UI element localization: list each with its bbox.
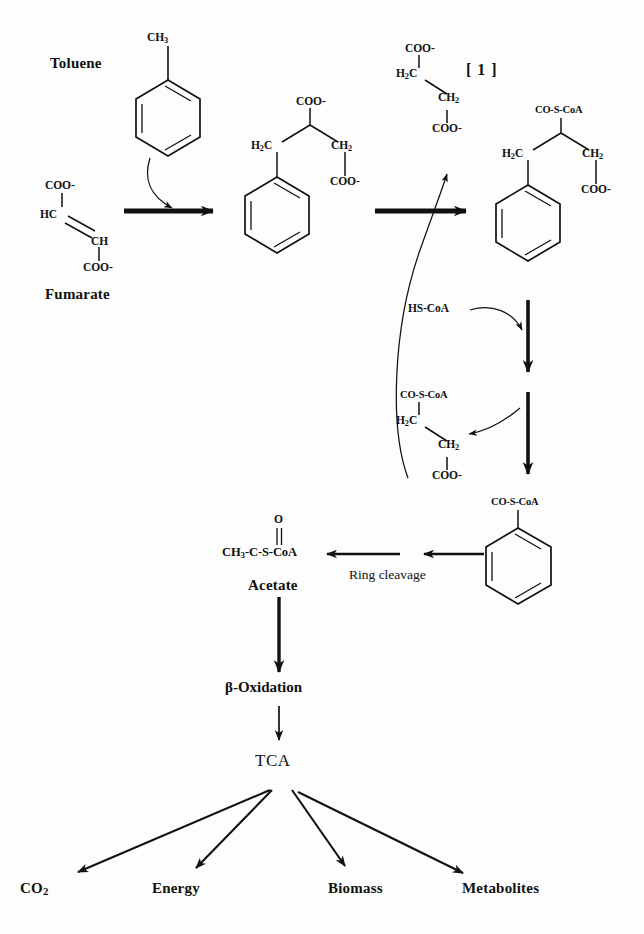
benzylsuccinate-right-group: CH2 — [331, 140, 352, 153]
bsc-left-branch — [533, 133, 561, 150]
hs-coa-label: HS-CoA — [408, 303, 449, 315]
succinyl-coa-left-group: H2C — [396, 415, 417, 428]
beta-oxidation-label: β-Oxidation — [225, 680, 302, 695]
arrow-tca-to-co2 — [78, 790, 270, 872]
co2-subscript: 2 — [43, 885, 49, 897]
acetyl-coa-chain-label: CH3-C-S-CoA — [222, 546, 297, 560]
acetate-label: Acetate — [248, 578, 298, 593]
product-label-metabolites: Metabolites — [462, 881, 539, 896]
arrow-to-succinyl-coa — [469, 408, 520, 434]
succinate-right-group: CH2 — [438, 92, 459, 105]
toluene-structure — [136, 46, 200, 156]
benzoyl-coa-top-group: CO-S-CoA — [491, 497, 538, 508]
fumarate-double-bond-a — [68, 216, 95, 231]
fumarate-left-carbon: HC — [40, 209, 57, 221]
acetyl-coa-carbonyl-oxygen: O — [274, 514, 283, 526]
bs-ring — [245, 177, 309, 253]
succinate-structure — [419, 55, 447, 123]
benzylsuccinate-bottom-group: COO- — [330, 176, 360, 188]
succinyl-coa-structure — [419, 402, 447, 470]
sc-right-sub: 2 — [455, 443, 459, 452]
bs-right-sub: 2 — [348, 144, 352, 153]
bsc-ring — [496, 185, 560, 261]
succinate-bottom-group: COO- — [432, 123, 462, 135]
benzoyl-coa-structure — [486, 510, 551, 604]
fumarate-top-carboxyl: COO- — [45, 180, 75, 192]
toluene-methyl-label: CH3 — [147, 32, 168, 45]
fumarate-label: Fumarate — [45, 287, 110, 302]
acetyl-chain-tail: -C-S-CoA — [245, 545, 297, 559]
fumarate-bottom-carboxyl: COO- — [83, 262, 113, 274]
benzylsuccinyl-coa-left-group: H2C — [502, 148, 523, 161]
benzylsuccinate-top-group: COO- — [296, 96, 326, 108]
bsc-inner-bond-2 — [525, 191, 551, 206]
arrow-succinyl-coa-to-succinate — [396, 174, 447, 478]
succinate-top-group: COO- — [405, 43, 435, 55]
toluene-ring — [136, 80, 200, 156]
bs-left-sub: 2 — [260, 144, 264, 153]
succinyl-coa-top-group: CO-S-CoA — [400, 390, 447, 401]
tca-label: TCA — [255, 752, 291, 769]
bs-inner-bond-3 — [274, 232, 300, 247]
bs-inner-bond-2 — [274, 183, 300, 198]
step-one-bracket-label: [ 1 ] — [466, 62, 498, 78]
benzylsuccinyl-coa-right-group: CH2 — [582, 148, 603, 161]
bsc-inner-bond-3 — [525, 240, 551, 255]
bsc-left-sub: 2 — [511, 152, 515, 161]
co2-text: CO — [20, 880, 43, 896]
bs-left-branch — [282, 125, 310, 142]
succinyl-coa-right-group: CH2 — [438, 439, 459, 452]
acetyl-coa-structure — [277, 528, 282, 545]
toluene-methyl-subscript: 3 — [164, 36, 168, 45]
succ-left-sub: 2 — [405, 72, 409, 81]
succinate-left-group: H2C — [396, 68, 417, 81]
benzylsuccinyl-coa-bottom-group: COO- — [581, 184, 611, 196]
succinyl-coa-bottom-group: COO- — [432, 470, 462, 482]
bc-inner-bond-2 — [515, 534, 541, 549]
bsc-right-sub: 2 — [599, 152, 603, 161]
pathway-diagram: CH3 Toluene COO- HC CH COO- Fumarate COO… — [0, 0, 644, 934]
ring-cleavage-label: Ring cleavage — [349, 568, 426, 582]
succ-right-sub: 2 — [455, 96, 459, 105]
arrow-hs-coa-entry — [470, 308, 522, 330]
sc-left-sub: 2 — [405, 419, 409, 428]
fumarate-right-carbon: CH — [91, 236, 108, 248]
pathway-vector-layer — [0, 0, 644, 934]
product-label-energy: Energy — [152, 881, 200, 896]
toluene-label: Toluene — [50, 56, 102, 71]
product-label-biomass: Biomass — [328, 881, 383, 896]
toluene-inner-bond-3 — [165, 135, 191, 150]
fumarate-double-bond-b — [65, 223, 92, 238]
benzylsuccinate-left-group: H2C — [251, 140, 272, 153]
arrow-tca-to-energy — [196, 790, 272, 868]
bc-ring — [486, 528, 551, 604]
fumarate-structure — [62, 193, 99, 261]
bc-inner-bond-3 — [515, 583, 541, 598]
benzylsuccinyl-coa-top-group: CO-S-CoA — [535, 105, 582, 116]
toluene-inner-bond-2 — [165, 86, 191, 101]
toluene-entry-curved-arrow — [147, 158, 172, 208]
product-label-co2: CO2 — [20, 881, 49, 897]
